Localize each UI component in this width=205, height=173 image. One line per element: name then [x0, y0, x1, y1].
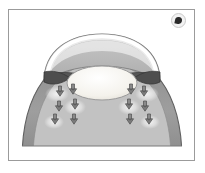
lens-shape	[67, 66, 137, 100]
highlight-patch	[135, 86, 159, 102]
figure-marker-badge	[171, 13, 186, 28]
marker-glyph-icon	[174, 16, 182, 24]
highlight-patch	[45, 86, 69, 102]
globe-crop-edge	[9, 146, 194, 160]
figure-root: Anterior segment of the eye Grayscale an…	[0, 0, 205, 173]
